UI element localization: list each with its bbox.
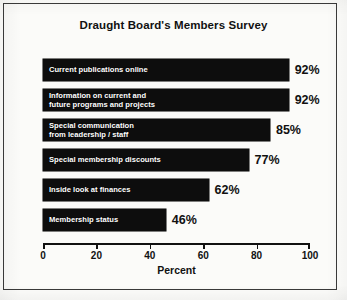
- bar-value-label: 62%: [209, 179, 240, 201]
- bar-value-label: 85%: [270, 119, 301, 141]
- bar-value-label: 92%: [289, 89, 320, 111]
- x-axis-tick-label: 20: [91, 250, 102, 261]
- x-axis-tick-label: 40: [144, 250, 155, 261]
- plot-area: Current publications online92%Informatio…: [0, 0, 347, 300]
- bar-value-label: 46%: [166, 209, 197, 231]
- bar-row: Special membership discounts77%: [43, 149, 347, 171]
- bar-label: Current publications online: [49, 59, 148, 81]
- bar-row: Membership status46%: [43, 209, 347, 231]
- x-axis-tick-label: 0: [40, 250, 46, 261]
- bar-label: Information on current and future progra…: [49, 89, 155, 111]
- bar-row: Special communication from leadership / …: [43, 119, 347, 141]
- bar-label: Membership status: [49, 209, 118, 231]
- x-axis-tick-label: 80: [251, 250, 262, 261]
- x-axis-title: Percent: [43, 264, 310, 276]
- chart-figure: Draught Board's Members Survey Current p…: [0, 0, 347, 300]
- x-axis-line: [43, 243, 310, 245]
- bar-value-label: 77%: [249, 149, 280, 171]
- bar-value-label: 92%: [289, 59, 320, 81]
- x-axis-tick-label: 60: [198, 250, 209, 261]
- bar-label: Special communication from leadership / …: [49, 119, 134, 141]
- bar-label: Inside look at finances: [49, 179, 130, 201]
- x-axis-tick-label: 100: [302, 250, 319, 261]
- bar-row: Inside look at finances62%: [43, 179, 347, 201]
- bar-label: Special membership discounts: [49, 149, 161, 171]
- bar-row: Information on current and future progra…: [43, 89, 347, 111]
- bar-row: Current publications online92%: [43, 59, 347, 81]
